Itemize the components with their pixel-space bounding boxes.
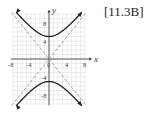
svg-text:y: y [51,5,56,15]
svg-text:-4: -4 [41,74,47,81]
svg-text:0: 0 [47,61,50,68]
axes [11,10,92,106]
svg-text:8: 8 [43,20,46,27]
svg-text:4: 4 [65,61,69,68]
svg-text:8: 8 [83,61,86,68]
svg-text:x: x [93,54,98,64]
reference-label: [11.3B] [104,4,144,20]
svg-text:-8: -8 [8,61,13,68]
svg-text:-8: -8 [41,92,46,99]
svg-text:-4: -4 [26,61,32,68]
